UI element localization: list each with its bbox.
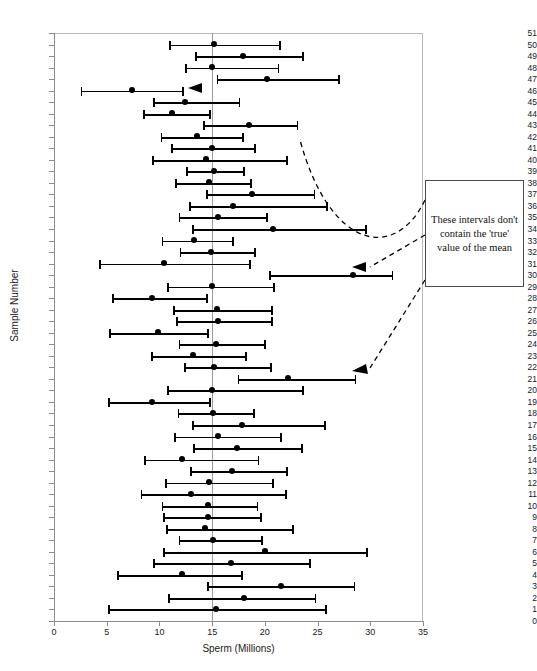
ci-cap-upper (182, 87, 184, 96)
ci-cap-lower (167, 283, 169, 292)
ci-cap-lower (163, 548, 165, 557)
ci-mean-dot (205, 514, 211, 520)
ci-row-sample-7 (0, 535, 537, 546)
ci-row-sample-14 (0, 455, 537, 466)
ci-cap-lower (108, 605, 110, 614)
x-tick-30 (370, 621, 371, 626)
y-tick-51 (49, 33, 54, 34)
ci-bar (190, 206, 327, 208)
ci-cap-upper (245, 352, 247, 361)
ci-bar (179, 344, 264, 346)
ci-cap-upper (365, 225, 367, 234)
ci-bar (166, 483, 274, 485)
ci-cap-lower (162, 237, 164, 246)
ci-cap-upper (239, 98, 241, 107)
ci-row-sample-20 (0, 385, 537, 396)
ci-cap-lower (165, 479, 167, 488)
ci-cap-lower (166, 525, 168, 534)
ci-mean-dot (264, 76, 270, 82)
ci-bar (164, 517, 261, 519)
ci-bar (162, 137, 243, 139)
ci-mean-dot (188, 491, 194, 497)
ci-mean-dot (161, 260, 167, 266)
ci-cap-upper (264, 340, 266, 349)
ci-cap-lower (180, 248, 182, 257)
ci-bar (207, 194, 315, 196)
ci-cap-upper (315, 594, 317, 603)
ci-mean-dot (230, 203, 236, 209)
ci-row-sample-13 (0, 466, 537, 477)
ci-mean-dot (241, 595, 247, 601)
ci-cap-upper (249, 260, 251, 269)
ci-bar (154, 102, 239, 104)
ci-cap-lower (99, 260, 101, 269)
ci-bar (144, 114, 210, 116)
ci-row-sample-48 (0, 63, 537, 74)
annotation-text: These intervals don't contain the 'true'… (426, 213, 523, 255)
ci-cap-upper (209, 110, 211, 119)
ci-mean-dot (270, 226, 276, 232)
ci-cap-upper (314, 190, 316, 199)
ci-bar (179, 217, 267, 219)
ci-cap-lower (186, 167, 188, 176)
ci-cap-upper (280, 433, 282, 442)
ci-bar (177, 321, 272, 323)
ci-bar (196, 56, 302, 58)
ci-mean-dot (149, 399, 155, 405)
ci-cap-upper (261, 536, 263, 545)
ci-cap-lower (153, 559, 155, 568)
ci-cap-upper (301, 444, 303, 453)
ci-bar (174, 310, 272, 312)
x-tick-20 (265, 621, 266, 626)
ci-cap-upper (366, 548, 368, 557)
ci-row-sample-27 (0, 305, 537, 316)
ci-cap-upper (271, 317, 273, 326)
ci-row-sample-41 (0, 143, 537, 154)
ci-cap-lower (169, 41, 171, 50)
ci-bar (185, 367, 271, 369)
y-tick-label-0: 0 (513, 617, 537, 626)
ci-cap-upper (243, 167, 245, 176)
ci-bar (217, 79, 338, 81)
ci-cap-upper (241, 571, 243, 580)
x-tick-label-0: 0 (39, 627, 69, 637)
ci-cap-lower (193, 444, 195, 453)
x-tick-label-15: 15 (197, 627, 227, 637)
ci-cap-lower (179, 340, 181, 349)
ci-bar (100, 264, 250, 266)
ci-cap-upper (325, 605, 327, 614)
ci-bar (109, 402, 210, 404)
ci-mean-dot (208, 249, 214, 255)
ci-row-sample-28 (0, 293, 537, 304)
ci-cap-upper (260, 513, 262, 522)
ci-cap-lower (174, 433, 176, 442)
ci-bar (176, 183, 251, 185)
ci-row-sample-15 (0, 443, 537, 454)
ci-cap-upper (272, 479, 274, 488)
ci-cap-lower (192, 421, 194, 430)
ci-cap-lower (163, 513, 165, 522)
ci-cap-lower (189, 202, 191, 211)
x-axis-title: Sperm (Millions) (54, 643, 423, 654)
ci-cap-lower (238, 375, 240, 384)
ci-cap-lower (203, 121, 205, 130)
ci-cap-upper (232, 237, 234, 246)
ci-row-sample-42 (0, 132, 537, 143)
ci-cap-upper (270, 363, 272, 372)
ci-row-sample-24 (0, 339, 537, 350)
ci-cap-lower (192, 225, 194, 234)
ci-mean-dot (278, 583, 284, 589)
ci-bar (113, 298, 207, 300)
ci-row-sample-40 (0, 155, 537, 166)
ci-cap-upper (209, 398, 211, 407)
ci-cap-upper (392, 271, 394, 280)
ci-bar (168, 390, 303, 392)
ci-bar (193, 229, 366, 231)
x-tick-25 (318, 621, 319, 626)
ci-cap-upper (242, 133, 244, 142)
ci-cap-upper (292, 525, 294, 534)
ci-row-sample-49 (0, 51, 537, 62)
ci-cap-lower (151, 352, 153, 361)
ci-bar (153, 160, 287, 162)
ci-cap-upper (355, 375, 357, 384)
